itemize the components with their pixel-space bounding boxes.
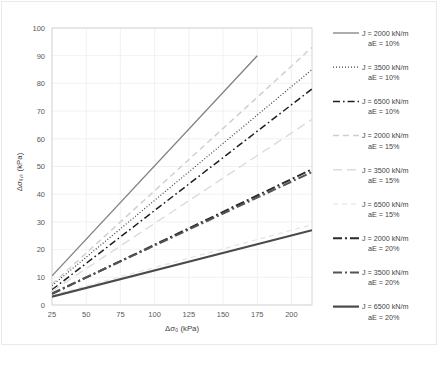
legend-label-line2: aE = 10% (368, 107, 400, 116)
x-tick-label: 75 (116, 310, 124, 319)
x-tick-label: 150 (217, 310, 230, 319)
series-line-6 (52, 169, 312, 294)
series-line-1 (52, 70, 312, 286)
legend-label-line1: J = 3500 kN/m (362, 166, 409, 175)
chart-canvas: 255075100125150175200 010203040506070809… (0, 0, 439, 365)
legend-label-line2: aE = 15% (368, 142, 400, 151)
series-lines (52, 47, 312, 296)
y-tick-label: 100 (32, 24, 45, 33)
y-tick-label: 80 (37, 79, 45, 88)
legend-label-line2: aE = 10% (368, 73, 400, 82)
legend-label-line2: aE = 15% (368, 210, 400, 219)
y-tick-labels: 0102030405060708090100 (32, 24, 45, 310)
legend-label-line2: aE = 15% (368, 176, 400, 185)
y-axis-title: Δσᵥ,ₛ (kPa) (15, 152, 24, 191)
x-tick-label: 100 (148, 310, 161, 319)
legend-label-line1: J = 2000 kN/m (362, 131, 409, 140)
chart-legend: J = 2000 kN/maE = 10%J = 3500 kN/maE = 1… (333, 29, 409, 322)
series-line-3 (52, 47, 312, 284)
legend-label-line2: aE = 20% (368, 313, 400, 322)
y-tick-label: 20 (37, 245, 45, 254)
y-tick-label: 30 (37, 218, 45, 227)
x-tick-label: 175 (251, 310, 264, 319)
y-tick-label: 60 (37, 135, 45, 144)
y-tick-label: 0 (41, 301, 45, 310)
legend-label-line1: J = 6500 kN/m (362, 200, 409, 209)
legend-label-line2: aE = 20% (368, 244, 400, 253)
chart-figure: 255075100125150175200 010203040506070809… (0, 0, 439, 365)
x-tick-label: 50 (82, 310, 90, 319)
x-tick-labels: 255075100125150175200 (48, 310, 298, 319)
y-tick-label: 50 (37, 162, 45, 171)
y-tick-label: 90 (37, 52, 45, 61)
legend-label-line1: J = 6500 kN/m (362, 302, 409, 311)
x-tick-label: 125 (183, 310, 196, 319)
y-tick-label: 70 (37, 107, 45, 116)
legend-label-line1: J = 3500 kN/m (362, 268, 409, 277)
legend-label-line2: aE = 10% (368, 39, 400, 48)
legend-label-line1: J = 6500 kN/m (362, 97, 409, 106)
series-line-8 (52, 230, 312, 296)
x-tick-label: 200 (285, 310, 298, 319)
y-tick-label: 10 (37, 273, 45, 282)
series-line-4 (52, 119, 312, 291)
legend-label-line2: aE = 20% (368, 278, 400, 287)
x-axis-title: Δσ₀ (kPa) (165, 324, 199, 333)
legend-label-line1: J = 2000 kN/m (362, 234, 409, 243)
x-tick-label: 25 (48, 310, 56, 319)
legend-label-line1: J = 3500 kN/m (362, 63, 409, 72)
y-tick-label: 40 (37, 190, 45, 199)
legend-label-line1: J = 2000 kN/m (362, 29, 409, 38)
